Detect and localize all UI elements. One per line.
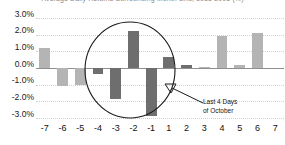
- bar: [128, 31, 139, 69]
- x-tick-label: 2: [178, 122, 196, 134]
- y-axis: 3.0%2.0%1.0%0.0%-1.0%-2.0%-3.0%: [0, 14, 34, 118]
- x-tick-label: -7: [36, 122, 54, 134]
- bar: [75, 68, 86, 85]
- x-tick-label: -6: [54, 122, 72, 134]
- bar: [93, 68, 104, 74]
- y-tick-label: -1.0%: [0, 76, 34, 85]
- bar: [163, 57, 174, 68]
- x-axis: -7-6-5-4-3-2-11234567: [36, 122, 284, 136]
- y-tick-label: 0.0%: [0, 60, 34, 69]
- x-tick-label: 4: [213, 122, 231, 134]
- bar: [39, 48, 50, 68]
- x-tick-label: -5: [71, 122, 89, 134]
- chart-screenshot: Average Daily Returns Surrounding Month-…: [0, 0, 285, 145]
- x-tick-label: 5: [231, 122, 249, 134]
- x-tick-label: 3: [195, 122, 213, 134]
- x-tick-label: -3: [107, 122, 125, 134]
- y-tick-label: 3.0%: [0, 10, 34, 19]
- y-tick-label: -3.0%: [0, 110, 34, 119]
- x-tick-label: 7: [266, 122, 284, 134]
- gridline: [36, 118, 284, 120]
- x-tick-label: -1: [142, 122, 160, 134]
- y-tick-label: -2.0%: [0, 93, 34, 102]
- bar: [252, 33, 263, 68]
- x-tick-label: 1: [160, 122, 178, 134]
- annotation-label-line2: of October: [203, 107, 275, 116]
- annotation-label-line1: Last 4 Days: [203, 98, 275, 107]
- bar: [146, 68, 157, 116]
- x-tick-label: -2: [125, 122, 143, 134]
- chart-title: Average Daily Returns Surrounding Month-…: [0, 0, 285, 3]
- y-tick-label: 2.0%: [0, 26, 34, 35]
- bar: [181, 65, 192, 68]
- annotation-label: Last 4 Days of October: [203, 98, 275, 115]
- bar: [57, 68, 68, 86]
- bar: [234, 65, 245, 68]
- x-tick-label: -4: [89, 122, 107, 134]
- bar: [217, 36, 228, 68]
- bar: [110, 68, 121, 99]
- bar: [199, 67, 210, 68]
- y-tick-label: 1.0%: [0, 43, 34, 52]
- x-tick-label: 6: [249, 122, 267, 134]
